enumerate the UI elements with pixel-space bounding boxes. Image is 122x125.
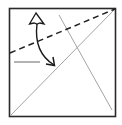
origami-fold-diagram bbox=[0, 0, 122, 125]
